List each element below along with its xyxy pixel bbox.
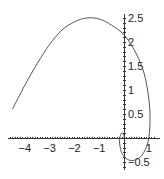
y-tick-label: 1.5 (128, 60, 143, 72)
x-tick-label: 1 (146, 142, 152, 154)
tick-labels: −4−3−2−112.521.510.5−0.5 (19, 12, 152, 168)
parametric-plot: −4−3−2−112.521.510.5−0.5 (0, 0, 164, 179)
y-tick-label: 1 (128, 84, 134, 96)
y-tick-label: 2.5 (128, 12, 143, 24)
y-tick-label: 0.5 (128, 108, 143, 120)
plot-area: −4−3−2−112.521.510.5−0.5 (0, 0, 164, 179)
y-tick-label: 2 (128, 36, 134, 48)
x-tick-label: −3 (43, 142, 56, 154)
x-tick-label: −4 (19, 142, 32, 154)
x-tick-label: −2 (68, 142, 81, 154)
x-tick-label: −1 (93, 142, 106, 154)
